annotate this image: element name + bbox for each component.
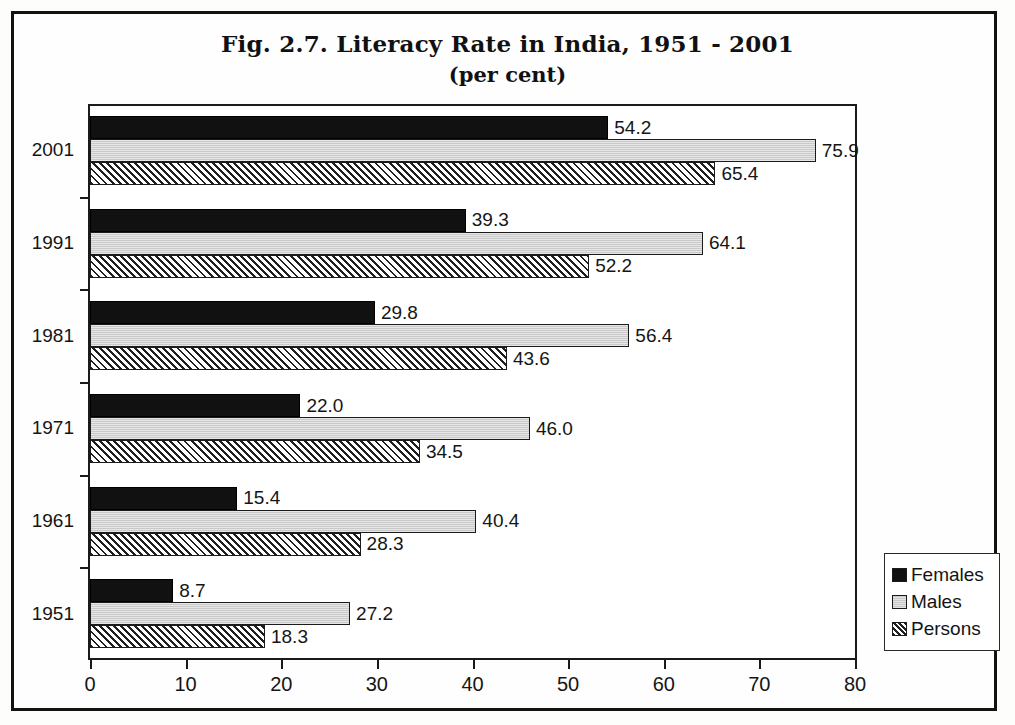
- chart-legend: FemalesMalesPersons: [884, 553, 1000, 651]
- legend-item-females: Females: [892, 561, 993, 588]
- bar-row: 34.5: [90, 440, 855, 463]
- x-axis-tick-label-70: 70: [748, 673, 770, 696]
- bar-value-label: 56.4: [635, 325, 672, 347]
- bar-value-label: 40.4: [482, 510, 519, 532]
- bar-row: 15.4: [90, 487, 855, 510]
- figure-page: Fig. 2.7. Literacy Rate in India, 1951 -…: [0, 0, 1015, 725]
- bar-females-1951: [90, 579, 173, 602]
- x-axis-tick-label-40: 40: [461, 673, 483, 696]
- bar-value-label: 43.6: [513, 348, 550, 370]
- legend-swatch-persons-icon: [892, 622, 907, 636]
- bar-females-2001: [90, 116, 608, 139]
- y-axis-label-1951: 1951: [32, 603, 74, 625]
- y-axis-label-1961: 1961: [32, 510, 74, 532]
- bar-group-1981: 29.856.443.6: [90, 301, 855, 370]
- y-axis-label-1971: 1971: [32, 417, 74, 439]
- x-axis-tick-label-50: 50: [557, 673, 579, 696]
- x-axis-tick-label-80: 80: [844, 673, 866, 696]
- bar-females-1991: [90, 209, 466, 232]
- bar-persons-1991: [90, 255, 589, 278]
- legend-item-males: Males: [892, 588, 993, 615]
- x-axis-tick: [377, 660, 379, 669]
- bar-males-1991: [90, 232, 703, 255]
- bar-value-label: 46.0: [536, 418, 573, 440]
- bar-row: 54.2: [90, 116, 855, 139]
- legend-label: Persons: [911, 618, 981, 640]
- bar-row: 56.4: [90, 324, 855, 347]
- bar-row: 64.1: [90, 232, 855, 255]
- bar-group-1951: 8.727.218.3: [90, 579, 855, 648]
- bar-value-label: 65.4: [721, 163, 758, 185]
- bar-persons-1951: [90, 625, 265, 648]
- bar-value-label: 29.8: [381, 302, 418, 324]
- bar-value-label: 54.2: [614, 117, 651, 139]
- bar-row: 75.9: [90, 139, 855, 162]
- x-axis-tick: [281, 660, 283, 669]
- bar-females-1971: [90, 394, 300, 417]
- bar-value-label: 27.2: [356, 603, 393, 625]
- bar-value-label: 22.0: [306, 395, 343, 417]
- bar-value-label: 28.3: [367, 533, 404, 555]
- x-axis: 01020304050607080: [88, 660, 857, 706]
- bar-value-label: 39.3: [472, 209, 509, 231]
- bar-row: 52.2: [90, 255, 855, 278]
- bar-row: 28.3: [90, 533, 855, 556]
- x-axis-tick: [186, 660, 188, 669]
- x-axis-tick-label-60: 60: [653, 673, 675, 696]
- x-axis-tick: [664, 660, 666, 669]
- bar-value-label: 15.4: [243, 487, 280, 509]
- bar-row: 43.6: [90, 347, 855, 370]
- bar-males-1961: [90, 510, 476, 533]
- bar-group-1961: 15.440.428.3: [90, 487, 855, 556]
- bar-group-1991: 39.364.152.2: [90, 209, 855, 278]
- bar-group-1971: 22.046.034.5: [90, 394, 855, 463]
- y-axis-category-labels: 200119911981197119611951: [0, 104, 82, 660]
- bar-value-label: 75.9: [822, 140, 859, 162]
- bar-row: 18.3: [90, 625, 855, 648]
- bar-row: 39.3: [90, 209, 855, 232]
- bar-value-label: 34.5: [426, 441, 463, 463]
- legend-swatch-males-icon: [892, 595, 907, 609]
- bar-persons-2001: [90, 162, 715, 185]
- x-axis-tick: [855, 660, 857, 669]
- bar-males-1971: [90, 417, 530, 440]
- plot-area: 54.275.965.439.364.152.229.856.443.622.0…: [88, 104, 857, 660]
- bar-males-2001: [90, 139, 816, 162]
- y-axis-label-2001: 2001: [32, 139, 74, 161]
- legend-label: Females: [911, 564, 984, 586]
- x-axis-tick-label-10: 10: [175, 673, 197, 696]
- bar-males-1981: [90, 324, 629, 347]
- bar-row: 46.0: [90, 417, 855, 440]
- y-axis-label-1981: 1981: [32, 325, 74, 347]
- bar-value-label: 18.3: [271, 626, 308, 648]
- bar-row: 40.4: [90, 510, 855, 533]
- bar-persons-1961: [90, 533, 361, 556]
- x-axis-tick-label-30: 30: [366, 673, 388, 696]
- bars-container: 54.275.965.439.364.152.229.856.443.622.0…: [90, 106, 855, 658]
- x-axis-tick-label-0: 0: [84, 673, 95, 696]
- bar-value-label: 52.2: [595, 255, 632, 277]
- bar-group-2001: 54.275.965.4: [90, 116, 855, 185]
- bar-value-label: 64.1: [709, 232, 746, 254]
- bar-row: 29.8: [90, 301, 855, 324]
- x-axis-tick: [759, 660, 761, 669]
- legend-label: Males: [911, 591, 962, 613]
- bar-value-label: 8.7: [179, 580, 205, 602]
- x-axis-tick: [90, 660, 92, 669]
- bar-row: 22.0: [90, 394, 855, 417]
- legend-swatch-females-icon: [892, 568, 907, 582]
- bar-persons-1971: [90, 440, 420, 463]
- bar-males-1951: [90, 602, 350, 625]
- x-axis-tick: [568, 660, 570, 669]
- x-axis-tick: [473, 660, 475, 669]
- legend-item-persons: Persons: [892, 615, 993, 642]
- bar-females-1961: [90, 487, 237, 510]
- x-axis-tick-label-20: 20: [270, 673, 292, 696]
- bar-row: 65.4: [90, 162, 855, 185]
- bar-row: 8.7: [90, 579, 855, 602]
- y-axis-label-1991: 1991: [32, 232, 74, 254]
- bar-persons-1981: [90, 347, 507, 370]
- bar-row: 27.2: [90, 602, 855, 625]
- bar-females-1981: [90, 301, 375, 324]
